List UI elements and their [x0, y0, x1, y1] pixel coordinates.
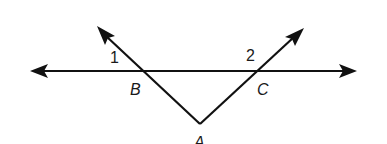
point-c-label: C	[257, 81, 269, 98]
geometry-diagram: 1 2 B C A	[0, 0, 387, 144]
angle-1-label: 1	[110, 49, 119, 66]
point-b-label: B	[130, 81, 141, 98]
ray-a-through-b	[106, 36, 200, 124]
point-a-label: A	[193, 134, 205, 144]
angle-2-label: 2	[246, 47, 255, 64]
